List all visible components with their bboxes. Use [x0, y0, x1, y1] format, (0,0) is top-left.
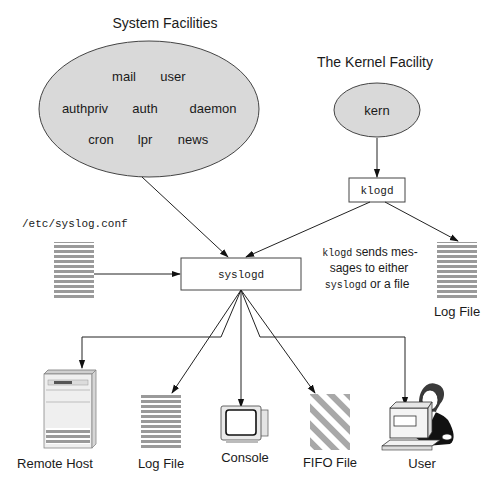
kernel-facility-title: The Kernel Facility	[317, 54, 433, 70]
user-at-terminal-icon	[382, 383, 454, 450]
klogd-note: klogd sends mes- sages to either syslogd…	[322, 245, 417, 291]
facility-cron: cron	[88, 132, 113, 147]
user-label: User	[408, 456, 436, 471]
note-line-2: sages to either	[330, 261, 409, 275]
fifo-file-icon	[310, 394, 350, 450]
remote-host-icon	[44, 370, 96, 448]
klogd-log-file-label: Log File	[434, 304, 480, 319]
facility-auth: auth	[132, 101, 157, 116]
syslogd-label: syslogd	[218, 269, 264, 281]
note-line-1: klogd sends mes-	[322, 245, 417, 259]
syslogd-box: syslogd	[181, 258, 301, 290]
facility-authpriv: authpriv	[62, 101, 109, 116]
facility-news: news	[178, 132, 209, 147]
facility-user: user	[160, 69, 186, 84]
klogd-box: klogd	[349, 178, 405, 202]
console-label: Console	[221, 450, 269, 465]
klogd-label: klogd	[360, 185, 393, 197]
system-facilities-title: System Facilities	[112, 15, 217, 31]
kernel-facility-ellipse: kern	[334, 83, 420, 137]
syslog-architecture-diagram: System Facilities The Kernel Facility ma…	[0, 0, 498, 487]
fifo-file-label: FIFO File	[303, 455, 357, 470]
console-monitor-icon	[221, 406, 268, 443]
facility-mail: mail	[112, 69, 136, 84]
facility-kern: kern	[364, 103, 389, 118]
system-facilities-ellipse: mail user authpriv auth daemon cron lpr …	[39, 41, 259, 177]
facility-lpr: lpr	[138, 132, 153, 147]
config-file-icon	[54, 242, 94, 300]
note-line-3: syslogd or a file	[325, 277, 410, 291]
config-path-label: /etc/syslog.conf	[22, 218, 128, 230]
log-file-label: Log File	[138, 456, 184, 471]
remote-host-label: Remote Host	[17, 456, 93, 471]
facility-daemon: daemon	[190, 101, 237, 116]
log-file-icon	[141, 394, 181, 450]
klogd-log-file-icon	[437, 242, 477, 298]
